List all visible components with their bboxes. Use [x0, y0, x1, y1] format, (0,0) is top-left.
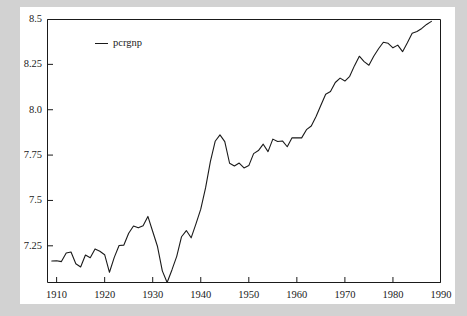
- y-axis-tick-label: 7.5: [20, 195, 42, 206]
- x-axis-tick-label: 1910: [46, 290, 67, 301]
- legend-label-pcrgnp: pcrgnp: [113, 38, 142, 49]
- line-chart-canvas: [47, 19, 441, 283]
- x-axis-tick-label: 1950: [238, 290, 259, 301]
- y-axis-tick-label: 7.75: [20, 150, 42, 161]
- y-axis-tick-label: 8.0: [20, 104, 42, 115]
- x-axis-tick-label: 1930: [142, 290, 163, 301]
- x-axis-tick-label: 1970: [334, 290, 355, 301]
- chart-legend: pcrgnp: [95, 38, 142, 49]
- plot-frame: [48, 20, 441, 283]
- y-axis-tick-label: 7.25: [20, 241, 42, 252]
- plot-area: [47, 19, 441, 283]
- x-axis-tick-label: 1920: [94, 290, 115, 301]
- x-axis-tick-label: 1990: [431, 290, 452, 301]
- x-axis-tick-label: 1960: [286, 290, 307, 301]
- y-axis-tick-label: 8.25: [20, 59, 42, 70]
- x-axis-tick-label: 1940: [190, 290, 211, 301]
- x-axis-tick-label: 1980: [382, 290, 403, 301]
- chart-figure: 7.257.57.758.08.258.5 191019201930194019…: [20, 7, 455, 304]
- legend-line-swatch: [95, 43, 108, 44]
- y-axis-tick-label: 8.5: [20, 14, 42, 25]
- series-line-pcrgnp: [52, 21, 432, 282]
